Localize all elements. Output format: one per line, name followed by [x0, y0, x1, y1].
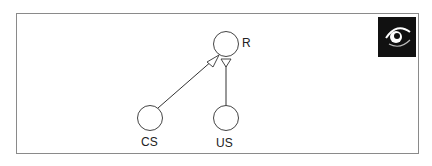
node-us-label: US [216, 136, 233, 150]
node-r [214, 32, 239, 57]
node-cs [138, 106, 163, 131]
diagram-canvas: R CS US [0, 0, 432, 166]
arrowhead-us-r [221, 59, 231, 67]
edge-cs-to-r [158, 60, 213, 108]
eye-icon [378, 17, 416, 57]
node-r-label: R [242, 36, 251, 50]
arrowhead-cs-r [207, 55, 219, 67]
node-us [214, 106, 239, 131]
node-cs-label: CS [141, 135, 158, 149]
